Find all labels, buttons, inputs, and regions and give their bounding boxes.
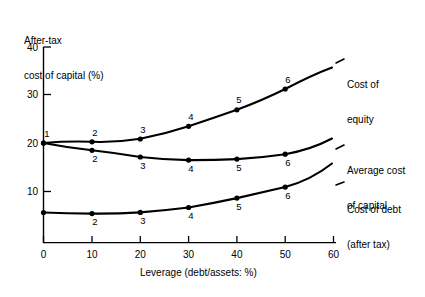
data-point bbox=[89, 139, 94, 144]
point-label: 4 bbox=[188, 163, 193, 174]
point-label: 5 bbox=[236, 201, 241, 212]
data-point bbox=[41, 140, 46, 145]
point-label: 5 bbox=[236, 94, 241, 105]
series-label-line1: Cost of debt bbox=[347, 204, 401, 216]
data-point bbox=[186, 124, 191, 129]
series-label-line2: equity bbox=[347, 114, 379, 126]
y-tick-label: 20 bbox=[27, 138, 39, 149]
point-label: 2 bbox=[92, 127, 97, 138]
point-label: 4 bbox=[188, 210, 193, 221]
x-tick-label: 0 bbox=[41, 249, 47, 260]
point-label: 3 bbox=[140, 215, 145, 226]
point-label: 6 bbox=[285, 74, 290, 85]
chart-figure: 1 2 3 4 5 6 2 3 4 5 6 2 3 4 5 6 40 30 20 bbox=[0, 0, 425, 297]
series-label-line1: Cost of bbox=[347, 79, 379, 91]
point-label: 1 bbox=[44, 128, 49, 139]
point-label: 4 bbox=[188, 111, 193, 122]
x-tick-label: 50 bbox=[280, 249, 292, 260]
x-axis-ticks bbox=[44, 236, 334, 243]
series-label-cost-of-equity: Cost of equity bbox=[347, 56, 379, 148]
point-label: 3 bbox=[140, 124, 145, 135]
x-tick-label: 60 bbox=[328, 249, 340, 260]
y-tick-label: 10 bbox=[27, 186, 39, 197]
point-label: 5 bbox=[236, 162, 241, 173]
point-label: 6 bbox=[285, 157, 290, 168]
point-label: 2 bbox=[92, 216, 97, 227]
point-label: 6 bbox=[285, 190, 290, 201]
series-label-line1: Average cost bbox=[347, 165, 405, 177]
point-label: 2 bbox=[92, 153, 97, 164]
debt-data-points bbox=[41, 185, 288, 217]
series-label-cost-of-debt: Cost of debt (after tax) bbox=[347, 181, 401, 273]
x-axis-title: Leverage (debt/assets: %) bbox=[140, 267, 257, 279]
series-label-line2: (after tax) bbox=[347, 239, 401, 251]
y-axis-title-line2: cost of capital (%) bbox=[24, 70, 103, 82]
wacc-point-labels: 2 3 4 5 6 bbox=[92, 153, 290, 174]
data-point bbox=[41, 210, 46, 215]
y-axis-title: After-tax cost of capital (%) bbox=[24, 12, 103, 104]
x-tick-label: 10 bbox=[86, 249, 98, 260]
x-tick-label: 30 bbox=[183, 249, 195, 260]
y-axis-title-line1: After-tax bbox=[24, 35, 103, 47]
point-label: 3 bbox=[140, 160, 145, 171]
data-point bbox=[283, 86, 288, 91]
x-tick-labels: 0 10 20 30 40 50 60 bbox=[41, 249, 340, 260]
label-leader-lines bbox=[336, 59, 344, 185]
data-point bbox=[234, 107, 239, 112]
x-tick-label: 40 bbox=[231, 249, 243, 260]
x-tick-label: 20 bbox=[135, 249, 147, 260]
data-point bbox=[138, 136, 143, 141]
